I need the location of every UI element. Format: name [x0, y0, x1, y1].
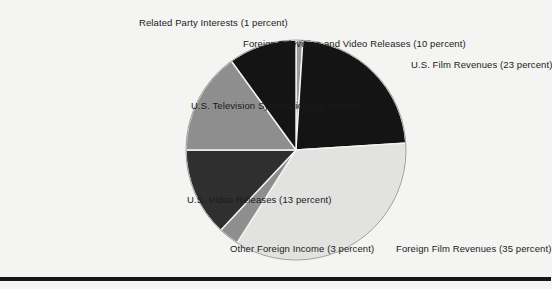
slice-label-us-television-syndication: U.S. Television Syndication (15 percent) — [191, 100, 363, 112]
slice-label-foreign-film-revenues: Foreign Film Revenues (35 percent) — [396, 243, 551, 255]
pie-slice-group — [186, 40, 406, 260]
slice-label-related-party-interests: Related Party Interests (1 percent) — [139, 17, 288, 29]
slice-label-foreign-television-and-video-releases: Foreign Television and Video Releases (1… — [243, 38, 466, 50]
footer-strip — [0, 281, 551, 289]
slice-label-other-foreign-income: Other Foreign Income (3 percent) — [230, 243, 374, 255]
slice-label-us-video-releases: U.S. Video Releases (13 percent) — [187, 194, 332, 206]
slice-label-us-film-revenues: U.S. Film Revenues (23 percent) — [411, 59, 552, 71]
pie-slice — [296, 40, 406, 150]
